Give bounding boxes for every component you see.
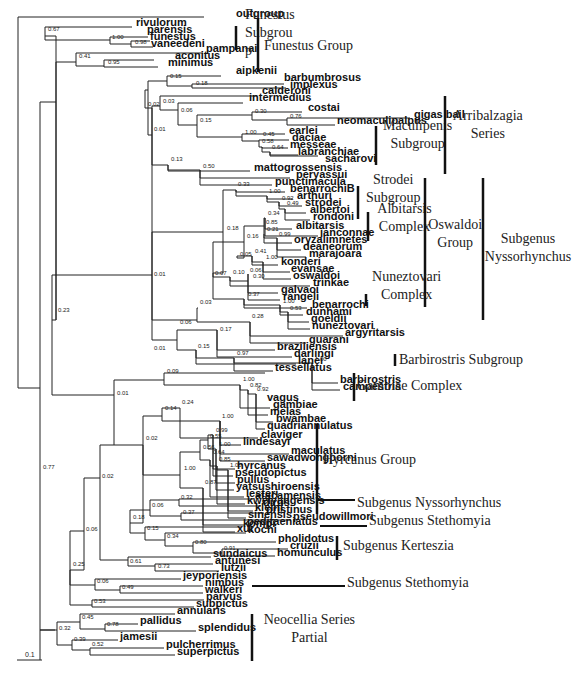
clade-label: Maculipenis bbox=[383, 118, 452, 133]
taxon-label: superpictus bbox=[177, 645, 239, 657]
clade-label: Strodei bbox=[373, 172, 414, 187]
support-value: 0.02 bbox=[148, 101, 160, 107]
support-value: 0.64 bbox=[272, 144, 284, 150]
support-value: 0.41 bbox=[79, 53, 91, 59]
support-value: 0.99 bbox=[279, 231, 291, 237]
support-value: 0.34 bbox=[268, 210, 280, 216]
clade-label: Oswaldoi bbox=[428, 217, 482, 232]
branch bbox=[52, 320, 114, 395]
support-value: 0.14 bbox=[165, 405, 177, 411]
branch bbox=[52, 102, 56, 320]
clade-label: Gambiae Complex bbox=[357, 378, 462, 393]
support-value: 0.17 bbox=[220, 326, 232, 332]
support-value: 0.15 bbox=[200, 117, 212, 123]
branch bbox=[162, 416, 220, 421]
clade-label: Albitarsis bbox=[377, 201, 431, 216]
support-value: 0.02 bbox=[146, 435, 158, 441]
support-value: 0.18 bbox=[227, 225, 239, 231]
branch bbox=[164, 380, 240, 385]
support-value: 0.18 bbox=[196, 80, 208, 86]
support-value: 0.53 bbox=[290, 305, 302, 311]
support-value: 0.01 bbox=[154, 271, 166, 277]
branch bbox=[248, 390, 256, 394]
branch bbox=[56, 62, 76, 102]
branch bbox=[242, 137, 259, 141]
taxon-label: intermedius bbox=[249, 91, 311, 103]
support-value: 0.06 bbox=[181, 107, 193, 113]
taxon-labels: outgrouprivulorumparensisfunestusvaneede… bbox=[119, 7, 465, 657]
clade-label: Subgenus Nyssorhynchus bbox=[357, 495, 501, 510]
clade-label: Arribalzagia bbox=[453, 108, 524, 123]
branch bbox=[70, 570, 92, 605]
branch bbox=[57, 630, 72, 645]
taxon-label: annularis bbox=[177, 604, 226, 616]
support-value: 0.05 bbox=[240, 251, 252, 257]
branch bbox=[160, 106, 178, 110]
support-value: 0.49 bbox=[122, 584, 134, 590]
support-value: 0.06 bbox=[86, 526, 98, 532]
branch bbox=[197, 125, 242, 137]
support-value: 0.24 bbox=[182, 399, 194, 405]
support-value: 0.45 bbox=[82, 614, 94, 620]
taxon-label: aipkenii bbox=[236, 64, 277, 76]
support-value: 0.30 bbox=[255, 108, 267, 114]
branch bbox=[76, 62, 104, 66]
support-value: 0.15 bbox=[198, 343, 210, 349]
branch bbox=[200, 452, 210, 460]
support-value: 0.28 bbox=[252, 313, 264, 319]
support-value: 0.32 bbox=[59, 625, 71, 631]
branch bbox=[52, 275, 152, 320]
support-value: 0.97 bbox=[237, 350, 249, 356]
support-value: 0.06 bbox=[180, 319, 192, 325]
support-value: 0.45 bbox=[263, 131, 275, 137]
support-value: 0.67 bbox=[48, 26, 60, 32]
support-value: 1.00 bbox=[219, 441, 231, 447]
branch bbox=[152, 275, 197, 320]
support-value: 1.00 bbox=[269, 188, 281, 194]
clade-label: Neocellia Series bbox=[264, 612, 355, 627]
branch bbox=[152, 275, 177, 340]
support-value: 0.37 bbox=[183, 509, 195, 515]
support-value: 0.15 bbox=[147, 525, 159, 531]
support-value: 0.85 bbox=[266, 219, 278, 225]
taxon-label: lindesayi bbox=[243, 435, 290, 447]
taxon-label: costai bbox=[308, 101, 340, 113]
branch bbox=[197, 320, 250, 322]
support-value: 0.50 bbox=[203, 163, 215, 169]
support-value: 0.30 bbox=[253, 273, 265, 279]
branch bbox=[45, 36, 110, 40]
branch bbox=[114, 395, 143, 445]
support-value: 1.00 bbox=[245, 129, 257, 135]
clade-label: p bbox=[245, 43, 252, 58]
clade-label: Nyssorhynchus bbox=[485, 249, 571, 264]
clade-label: Funestus bbox=[245, 7, 295, 22]
branch bbox=[150, 510, 181, 516]
support-value: 0.16 bbox=[247, 233, 259, 239]
clade-label: Subgenus Stethomyia bbox=[347, 575, 470, 590]
support-value: 0.98 bbox=[135, 39, 147, 45]
support-value: 0.55 bbox=[210, 433, 222, 439]
clade-label: Barbirostris Subgroup bbox=[399, 352, 523, 367]
branch bbox=[256, 394, 265, 429]
branch bbox=[168, 165, 200, 170]
branch bbox=[285, 209, 306, 213]
branch bbox=[152, 135, 168, 165]
taxon-label: homunculus bbox=[277, 546, 342, 558]
taxon-label: vaneedeni bbox=[151, 37, 205, 49]
support-value: 0.03 bbox=[200, 299, 212, 305]
support-value: 0.01 bbox=[117, 390, 129, 396]
branch bbox=[148, 90, 152, 135]
taxon-label: jamesii bbox=[119, 630, 157, 642]
branch bbox=[95, 585, 120, 590]
taxon-label: pseudowillmori bbox=[293, 510, 374, 522]
clade-label: Subgenus Stethomyia bbox=[369, 513, 492, 528]
support-value: 0.77 bbox=[43, 464, 55, 470]
branch bbox=[70, 570, 95, 585]
branch bbox=[252, 256, 263, 262]
clade-label: Hyrcanus Group bbox=[323, 452, 416, 467]
scale-bar: 0.1 bbox=[17, 651, 42, 660]
support-value: 0.52 bbox=[92, 641, 104, 647]
branch bbox=[130, 523, 145, 533]
clade-label: Complex bbox=[379, 219, 430, 234]
support-value: 0.13 bbox=[171, 156, 183, 162]
